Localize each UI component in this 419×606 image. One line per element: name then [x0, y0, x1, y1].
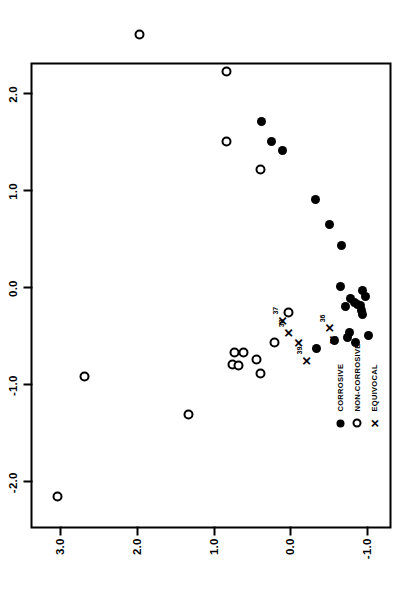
y-tick-label: 3.0: [53, 538, 65, 574]
x-tick-mark: [23, 480, 32, 482]
data-point-non-corrosive: [183, 409, 193, 419]
data-point-corrosive: [266, 136, 275, 145]
data-point-corrosive: [358, 310, 367, 319]
data-point-corrosive: [256, 117, 265, 126]
legend: CORROSIVENON-CORROSIVE✕EQUIVOCAL: [332, 343, 383, 430]
legend-item: CORROSIVE: [332, 343, 347, 430]
y-tick-mark: [213, 526, 215, 535]
filled-circle-icon: [336, 416, 344, 430]
legend-item-label: CORROSIVE: [335, 363, 344, 411]
data-point-non-corrosive: [238, 347, 248, 357]
data-point-non-corrosive: [251, 354, 261, 364]
data-point-non-corrosive: [255, 164, 265, 174]
data-point-corrosive: [278, 146, 287, 155]
legend-item-label: EQUIVOCAL: [369, 364, 378, 411]
x-tick-label: 2.0: [6, 86, 18, 103]
data-point-corrosive: [325, 220, 334, 229]
y-tick-label: 2.0: [130, 538, 142, 574]
x-tick-mark: [23, 286, 32, 288]
x-marker-icon: ✕: [369, 416, 379, 430]
y-tick-mark: [136, 526, 138, 535]
y-tick-mark: [289, 526, 291, 535]
legend-item: ✕EQUIVOCAL: [366, 343, 381, 430]
data-point-corrosive: [312, 344, 321, 353]
x-tick-label: -1.0: [6, 375, 18, 396]
data-point-label: 37: [271, 306, 278, 314]
data-point-corrosive: [311, 194, 320, 203]
data-point-label: 38: [277, 319, 284, 327]
y-tick-mark: [366, 526, 368, 535]
data-point-non-corrosive: [229, 347, 239, 357]
legend-item-label: NON-CORROSIVE: [352, 343, 361, 411]
data-point-non-corrosive: [269, 337, 279, 347]
data-point-non-corrosive: [233, 360, 243, 370]
data-point-corrosive: [336, 282, 345, 291]
data-point-non-corrosive: [221, 66, 231, 76]
data-point-non-corrosive: [255, 368, 265, 378]
data-point-corrosive: [336, 241, 345, 250]
data-point-label: 39: [296, 346, 303, 354]
x-tick-mark: [23, 92, 32, 94]
x-tick-label: 1.0: [6, 183, 18, 200]
data-point-corrosive: [360, 291, 369, 300]
data-point-non-corrosive: [221, 136, 231, 146]
y-tick-label: 1.0: [207, 538, 219, 574]
x-tick-mark: [23, 189, 32, 191]
data-point-non-corrosive: [79, 371, 89, 381]
x-tick-label: 0.0: [6, 280, 18, 297]
data-point-corrosive: [363, 330, 372, 339]
scatter-plot-figure: Principal Component 1 -2.0-1.00.01.02.0 …: [0, 0, 419, 606]
legend-item: NON-CORROSIVE: [349, 343, 364, 430]
x-tick-label: -2.0: [6, 472, 18, 493]
data-point-corrosive: [342, 332, 351, 341]
y-tick-label: 0.0: [283, 538, 295, 574]
y-tick-label: -1.0: [360, 538, 372, 574]
plot-area: -2.0-1.00.01.02.0 -1.00.01.02.03.0 ✕37✕3…: [30, 62, 391, 528]
open-circle-icon: [352, 416, 361, 430]
y-tick-mark: [59, 526, 61, 535]
x-tick-mark: [23, 383, 32, 385]
data-point-equivocal: ✕: [323, 322, 335, 334]
figure-canvas: Principal Component 1 -2.0-1.00.01.02.0 …: [0, 0, 419, 606]
data-point-equivocal: ✕: [300, 354, 312, 366]
data-point-non-corrosive: [52, 491, 62, 501]
data-point-non-corrosive: [134, 29, 144, 39]
data-point-corrosive: [340, 301, 349, 310]
data-point-label: 36: [319, 314, 326, 322]
